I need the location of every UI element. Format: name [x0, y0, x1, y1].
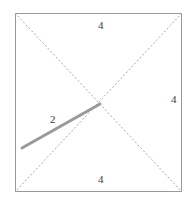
- side-length-label-right: 4: [171, 94, 177, 105]
- side-length-label-top: 4: [98, 20, 104, 31]
- figure-canvas: [0, 0, 194, 205]
- geometry-figure: 4 4 4 2: [0, 0, 194, 205]
- side-length-label-bottom: 4: [98, 174, 104, 185]
- segment-length-label: 2: [50, 114, 56, 125]
